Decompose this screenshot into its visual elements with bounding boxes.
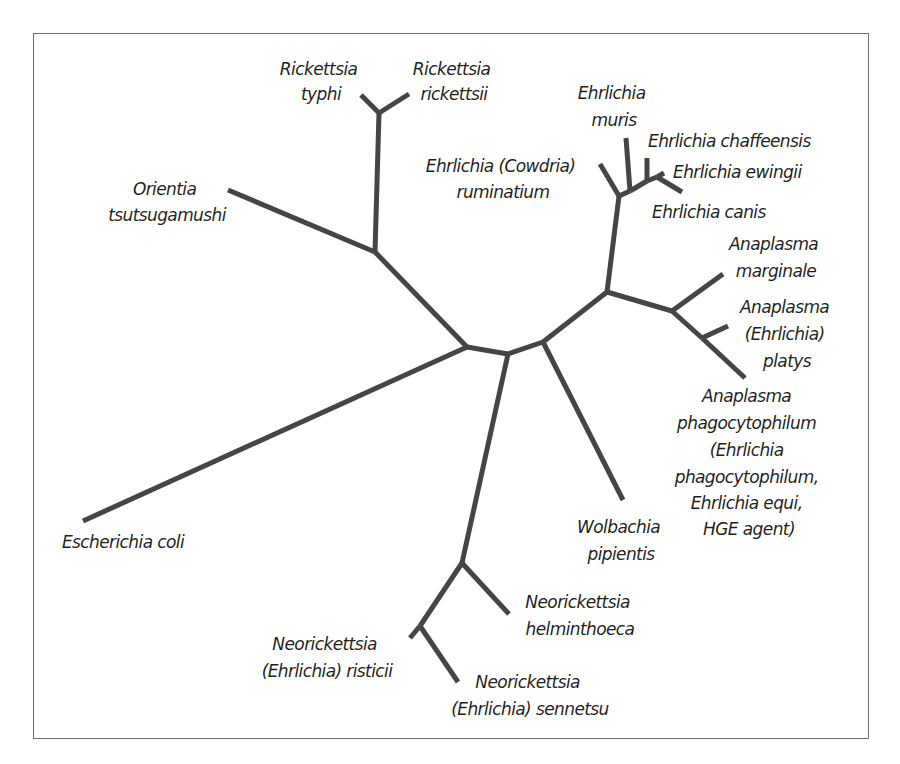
branch-neorickettsia-inner: [420, 563, 462, 626]
phylogenetic-tree: Rickettsia typhi Rickettsia rickettsii O…: [0, 0, 900, 764]
branch-anaplasma-stem: [607, 292, 672, 311]
branch-anaplasma-platys: [702, 326, 728, 338]
branch-anaplasma-inner: [672, 311, 702, 338]
label-ehrlichia-canis: Ehrlichia canis: [652, 202, 766, 222]
label-wolbachia: Wolbachia pipientis: [577, 517, 665, 564]
label-ehrlichia-chaffeensis: Ehrlichia chaffeensis: [648, 131, 811, 151]
label-ehrlichia-cowdria: Ehrlichia (Cowdria) ruminatium: [426, 156, 580, 202]
branch-ecoli: [83, 347, 467, 521]
branch-orientia: [228, 190, 375, 252]
label-anaplasma-phagocytophilum: Anaplasma phagocytophilum (Ehrlichia pha…: [674, 386, 824, 539]
branch-rickettsia-typhi: [361, 95, 379, 113]
branch-center-ab: [467, 347, 508, 354]
taxon-labels: Rickettsia typhi Rickettsia rickettsii O…: [62, 59, 834, 719]
label-rickettsia-typhi: Rickettsia typhi: [280, 59, 362, 104]
branch-center-bc: [508, 342, 543, 354]
label-anaplasma-marginale: Anaplasma marginale: [728, 234, 823, 281]
label-orientia: Orientia tsutsugamushi: [108, 179, 227, 225]
label-escherichia-coli: Escherichia coli: [62, 532, 185, 552]
label-ehrlichia-ewingii: Ehrlichia ewingii: [673, 162, 802, 182]
branch-wolbachia: [543, 342, 623, 500]
label-rickettsia-rickettsii: Rickettsia rickettsii: [413, 59, 495, 104]
branch-ehrlichia-muris: [626, 138, 630, 191]
label-ehrlichia-muris: Ehrlichia muris: [578, 83, 651, 130]
label-neorickettsia-risticii: Neorickettsia (Ehrlichia) risticii: [262, 634, 394, 681]
branch-ehrlichia-inner: [619, 191, 630, 196]
branch-ehrlichia-cowdria: [600, 164, 619, 196]
branch-ehrlichia-inner2: [630, 181, 647, 191]
label-neorickettsia-helminthoeca: Neorickettsia helminthoeca: [525, 592, 634, 639]
branch-anaplasma-marginale: [672, 274, 723, 311]
branch-center-cd: [543, 292, 607, 342]
branch-anaplasma-phagocytophilum: [702, 338, 745, 378]
label-neorickettsia-sennetsu: Neorickettsia (Ehrlichia) sennetsu: [451, 672, 609, 719]
branch-ehrlichia-stem: [607, 196, 619, 292]
label-anaplasma-platys: Anaplasma (Ehrlichia) platys: [739, 297, 834, 371]
branch-rickettsiales-root: [375, 252, 467, 347]
branch-rickettsia-stem: [375, 113, 379, 252]
branch-neorickettsia-stem: [462, 354, 508, 563]
branch-neorickettsia-sennetsu: [420, 626, 458, 682]
branch-rickettsia-rickettsii: [379, 94, 409, 113]
branch-neorickettsia-helminthoeca: [462, 563, 509, 614]
